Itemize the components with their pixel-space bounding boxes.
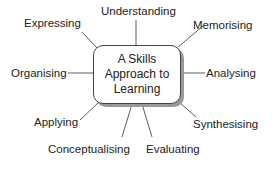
skill-expressing: Expressing (24, 17, 81, 30)
skill-conceptualising: Conceptualising (48, 143, 130, 156)
skill-understanding: Understanding (101, 5, 176, 18)
skill-synthesising: Synthesising (193, 118, 258, 131)
center-line-3: Learning (105, 82, 170, 97)
skill-evaluating: Evaluating (146, 143, 200, 156)
center-line-1: A Skills (105, 52, 170, 67)
skill-organising: Organising (11, 67, 67, 80)
skill-applying: Applying (34, 116, 78, 129)
skill-memorising: Memorising (193, 19, 252, 32)
skill-analysing: Analysing (206, 67, 256, 80)
center-node: A Skills Approach to Learning (93, 45, 181, 104)
center-line-2: Approach to (105, 67, 170, 82)
